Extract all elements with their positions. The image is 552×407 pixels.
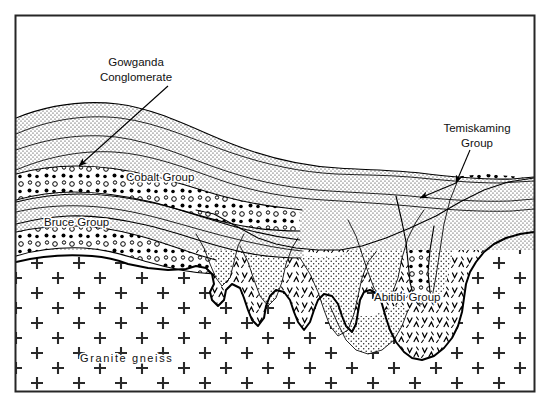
label-gowganda-line1: Gowganda xyxy=(108,56,164,68)
label-granite-gneiss: Granite gneiss xyxy=(80,352,173,364)
label-temiskaming-line2: Group xyxy=(461,137,493,149)
cross-section-svg: Gowganda Conglomerate Cobalt Group Bruce… xyxy=(0,0,552,407)
label-cobalt-group: Cobalt Group xyxy=(126,171,194,183)
label-gowganda-line2: Conglomerate xyxy=(100,71,172,83)
label-temiskaming-line1: Temiskaming xyxy=(443,122,510,134)
label-abitibi-group: Abitibi Group xyxy=(374,291,440,303)
label-bruce-group: Bruce Group xyxy=(44,216,109,228)
figure-canvas: Gowganda Conglomerate Cobalt Group Bruce… xyxy=(0,0,552,407)
